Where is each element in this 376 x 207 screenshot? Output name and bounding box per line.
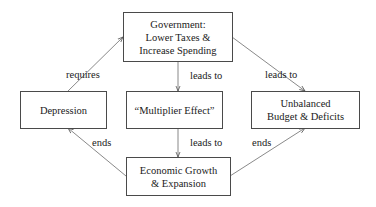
node-growth-line-1: Economic Growth [140,164,217,177]
node-growth-line-2: & Expansion [151,177,206,190]
flow-diagram: Government: Lower Taxes & Increase Spend… [0,0,376,207]
node-government-line-3: Increase Spending [139,44,216,57]
edge-label-leads-to-unbalanced: leads to [265,69,297,81]
edge-label-ends-unbalanced: ends [252,137,271,149]
node-government-line-1: Government: [150,18,205,31]
node-depression: Depression [20,91,107,129]
node-unbalanced-budget: Unbalanced Budget & Deficits [251,91,360,129]
edge-label-requires: requires [66,69,100,81]
node-government-line-2: Lower Taxes & [146,31,211,44]
node-unbalanced-line-2: Budget & Deficits [267,110,344,123]
node-depression-label: Depression [40,104,87,117]
node-economic-growth: Economic Growth & Expansion [126,157,231,196]
node-unbalanced-line-1: Unbalanced [280,97,330,110]
edge-label-ends-depression: ends [92,137,111,149]
node-multiplier-label: “Multiplier Effect” [135,104,215,117]
edge-label-leads-to-growth: leads to [190,137,222,149]
edge-depression-to-government [68,37,123,91]
edge-label-leads-to-multiplier: leads to [190,70,222,82]
node-government: Government: Lower Taxes & Increase Spend… [123,12,233,62]
edge-government-to-unbalanced [232,37,305,91]
edge-growth-to-depression [68,128,126,176]
node-multiplier-effect: “Multiplier Effect” [126,91,223,129]
edge-growth-to-unbalanced [230,128,305,176]
